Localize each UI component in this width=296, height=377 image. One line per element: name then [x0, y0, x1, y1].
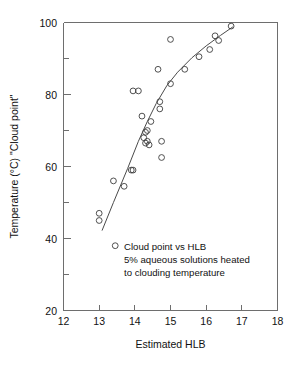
chart-figure: 100 80 60 40 20 12 13 14 15 16 17 18 Est…: [0, 0, 296, 377]
annotation-line-3: to clouding temperature: [124, 267, 225, 278]
data-point: [159, 138, 165, 144]
x-tick-labels: 12 13 14 15 16 17 18: [58, 315, 284, 327]
data-point: [182, 66, 188, 72]
scatter-plot: 100 80 60 40 20 12 13 14 15 16 17 18 Est…: [0, 0, 296, 377]
y-axis-title: Temperature (°C) "Cloud point": [8, 94, 20, 238]
x-axis-ticks: [64, 305, 278, 311]
x-tick-label-15: 15: [165, 315, 177, 327]
data-point: [146, 142, 152, 148]
y-tick-label-40: 40: [45, 233, 57, 245]
x-tick-label-13: 13: [93, 315, 105, 327]
annotation-line-1: Cloud point vs HLB: [124, 241, 206, 252]
y-tick-label-100: 100: [39, 17, 57, 29]
data-point: [155, 66, 161, 72]
y-axis-major-ticks: [64, 23, 71, 311]
data-point: [96, 210, 102, 216]
y-tick-label-20: 20: [45, 305, 57, 317]
x-tick-label-14: 14: [129, 315, 141, 327]
fit-trend-curve: [102, 27, 233, 231]
data-point: [157, 106, 163, 112]
data-point-group: [96, 23, 234, 248]
data-point: [148, 119, 154, 125]
annotation-line-2: 5% aqueous solutions heated: [124, 254, 250, 265]
data-point: [139, 113, 145, 119]
x-tick-label-12: 12: [58, 315, 70, 327]
data-point: [96, 218, 102, 224]
y-tick-labels: 100 80 60 40 20: [39, 17, 57, 317]
data-point: [111, 178, 117, 184]
y-tick-label-80: 80: [45, 89, 57, 101]
annotation-block: Cloud point vs HLB 5% aqueous solutions …: [124, 241, 250, 278]
data-point: [216, 38, 222, 44]
x-tick-label-17: 17: [236, 315, 248, 327]
data-point: [196, 54, 202, 60]
data-point: [207, 47, 213, 53]
data-point: [141, 135, 147, 141]
data-point: [121, 183, 127, 189]
y-tick-label-60: 60: [45, 161, 57, 173]
data-point: [159, 155, 165, 161]
x-axis-title: Estimated HLB: [135, 338, 205, 350]
x-tick-label-16: 16: [200, 315, 212, 327]
data-point: [168, 37, 174, 43]
x-tick-label-18: 18: [272, 315, 284, 327]
data-point: [112, 243, 118, 249]
